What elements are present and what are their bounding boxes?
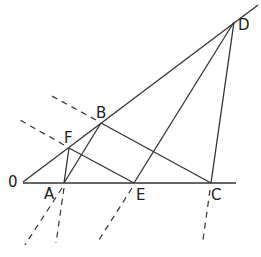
dashed-f-up-left [20,120,64,145]
label-o: 0 [8,175,18,190]
dashed-b-up-left [50,95,96,120]
label-b: B [96,106,106,121]
segment-c-d [211,22,234,183]
dashed-c-down [203,190,210,240]
ray-o-d [23,5,258,182]
segment-f-e [69,148,134,183]
dashed-e-down-left [97,188,132,243]
label-d: D [238,18,250,33]
label-f: F [64,131,73,146]
geometry-diagram [0,0,261,257]
label-c: C [211,188,221,203]
label-a: A [44,187,54,202]
dashed-a-down [56,188,64,243]
segment-e-d [134,22,234,183]
label-e: E [136,188,145,203]
